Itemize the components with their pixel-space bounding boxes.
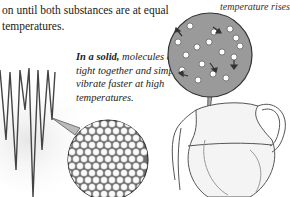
water-jug-icon (172, 103, 285, 197)
illustration-canvas (0, 0, 290, 197)
